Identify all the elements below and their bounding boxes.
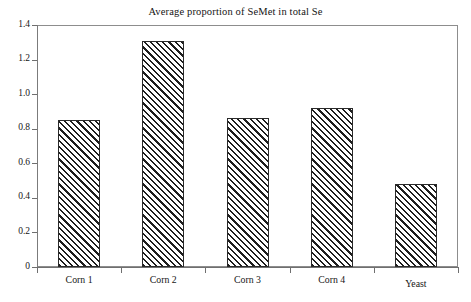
x-tick-label: Corn 3 <box>208 275 288 286</box>
bar-yeast <box>395 184 437 267</box>
y-tick-label: 1.0 <box>0 89 30 99</box>
y-tick-mark <box>32 94 37 95</box>
x-tick-mark <box>374 268 375 273</box>
x-tick-label: Corn 1 <box>39 275 119 286</box>
bar-corn-3 <box>227 118 269 267</box>
x-tick-mark <box>458 268 459 273</box>
y-tick-label: 0.6 <box>0 158 30 168</box>
chart-title: Average proportion of SeMet in total Se <box>0 6 471 17</box>
bar-corn-2 <box>142 41 184 267</box>
y-tick-mark <box>32 25 37 26</box>
y-tick-label: 0.2 <box>0 227 30 237</box>
x-axis-spine <box>37 267 459 268</box>
x-tick-label: Yeast <box>376 279 456 290</box>
y-axis-spine <box>37 25 38 268</box>
x-tick-mark <box>205 268 206 273</box>
y-tick-mark <box>32 60 37 61</box>
y-axis <box>0 0 37 302</box>
y-tick-label: 1.4 <box>0 20 30 30</box>
y-tick-mark <box>32 198 37 199</box>
bar-chart-figure: Average proportion of SeMet in total Se … <box>0 0 471 302</box>
x-tick-mark <box>121 268 122 273</box>
y-tick-mark <box>32 232 37 233</box>
y-tick-mark <box>32 129 37 130</box>
bar-corn-1 <box>58 120 100 267</box>
y-tick-label: 1.2 <box>0 54 30 64</box>
y-tick-label: 0 <box>0 262 30 272</box>
y-tick-label: 0.4 <box>0 192 30 202</box>
bar-corn-4 <box>311 108 353 267</box>
x-tick-mark <box>290 268 291 273</box>
x-tick-mark <box>37 268 38 273</box>
y-tick-label: 0.8 <box>0 123 30 133</box>
y-tick-mark <box>32 163 37 164</box>
x-tick-label: Corn 2 <box>123 275 203 286</box>
x-tick-label: Corn 4 <box>292 275 372 286</box>
